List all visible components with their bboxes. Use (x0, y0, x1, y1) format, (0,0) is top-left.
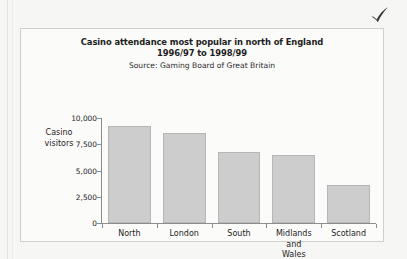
y-axis-tick-label: 10,000 (71, 114, 97, 123)
bar-slot (321, 118, 376, 223)
chart-title-block: Casino attendance most popular in north … (21, 29, 383, 71)
x-axis-tick-mark (266, 224, 267, 228)
x-axis-tick-label: London (157, 229, 212, 240)
bar[interactable] (327, 185, 370, 223)
x-axis-tick-mark (376, 224, 377, 228)
y-axis-tick-labels: 02,5005,0007,50010,000 (55, 79, 97, 223)
bar-slot (102, 118, 157, 223)
x-axis-tick-label: South (212, 229, 267, 240)
x-axis-tick-labels: NorthLondonSouthMidlandsandWalesScotland (102, 229, 376, 259)
y-axis-tick-mark (97, 197, 101, 198)
x-axis-tick-label-line: Midlands (266, 229, 321, 240)
page-edge-line (7, 0, 8, 259)
bar[interactable] (272, 155, 315, 223)
x-axis-tick-label-line: Scotland (321, 229, 376, 240)
x-axis-tick-label-line: and (266, 240, 321, 251)
x-axis-tick-mark (321, 224, 322, 228)
y-axis-tick-mark (97, 171, 101, 172)
x-axis-tick-mark (102, 224, 103, 228)
y-axis-tick-mark (97, 144, 101, 145)
x-axis-tick-label: North (102, 229, 157, 240)
chart-title-line1: Casino attendance most popular in north … (21, 37, 383, 48)
x-axis-tick-label-line: London (157, 229, 212, 240)
x-axis-tick-label-line: North (102, 229, 157, 240)
x-axis-tick-mark (157, 224, 158, 228)
y-axis-tick-mark (97, 223, 101, 224)
x-axis-tick-label: MidlandsandWales (266, 229, 321, 259)
y-axis-tick-label: 2,500 (76, 192, 97, 201)
x-axis-tick-label-line: Wales (266, 250, 321, 259)
bar[interactable] (108, 126, 151, 223)
check-mark-icon (369, 5, 391, 25)
bar-slot (212, 118, 267, 223)
x-axis-tick-mark (212, 224, 213, 228)
chart-title-line2: 1996/97 to 1998/99 (21, 48, 383, 59)
y-axis-tick-label: 7,500 (76, 140, 97, 149)
plot-area: Casino visitors 02,5005,0007,50010,000 N… (21, 79, 385, 239)
chart-figure: Casino attendance most popular in north … (20, 28, 384, 242)
bar[interactable] (163, 133, 206, 223)
chart-source-note: Source: Gaming Board of Great Britain (21, 60, 383, 71)
bar-slot (157, 118, 212, 223)
y-axis-tick-mark (97, 118, 101, 119)
y-axis-tick-label: 5,000 (76, 166, 97, 175)
x-axis-tick-label-line: South (212, 229, 267, 240)
bar-series (102, 118, 376, 223)
x-axis-line (101, 223, 376, 224)
x-axis-tick-label: Scotland (321, 229, 376, 240)
page-edge-line-secondary (12, 0, 13, 259)
bar-slot (266, 118, 321, 223)
bar[interactable] (218, 152, 261, 223)
